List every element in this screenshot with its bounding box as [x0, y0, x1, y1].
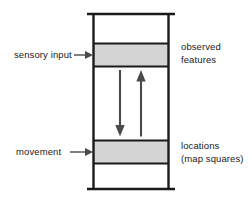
label-observed-features-line1: observed	[181, 41, 221, 54]
label-locations-line1: locations	[181, 140, 244, 153]
downward-arrow	[115, 70, 124, 137]
label-observed-features: observed features	[181, 41, 221, 66]
label-movement: movement	[16, 146, 61, 159]
diagram-canvas: sensory input movement observed features…	[0, 0, 252, 205]
sensory-input-arrow-right-icon	[74, 51, 93, 59]
observed-features-band	[94, 44, 168, 67]
label-sensory-input: sensory input	[14, 49, 72, 62]
label-locations-line2: (map squares)	[181, 153, 244, 166]
movement-arrow-right-icon	[70, 148, 93, 156]
label-observed-features-line2: features	[181, 54, 221, 67]
diagram-graphic	[0, 0, 252, 205]
locations-band	[94, 141, 168, 164]
upward-arrow	[136, 70, 145, 137]
label-locations: locations (map squares)	[181, 140, 244, 165]
